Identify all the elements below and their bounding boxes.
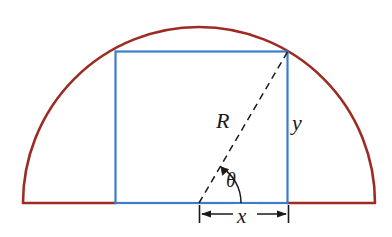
semicircle-rectangle-diagram	[0, 0, 392, 237]
radius-label: R	[216, 110, 229, 132]
semicircle-arc	[23, 27, 375, 203]
radius-dashed-line	[199, 51, 288, 203]
figure-canvas: R y θ x	[0, 0, 392, 237]
dimension-arrowhead-right-icon	[277, 210, 287, 217]
inscribed-rectangle	[116, 52, 288, 204]
height-label: y	[292, 112, 302, 134]
dimension-arrowhead-left-icon	[201, 210, 211, 217]
angle-label: θ	[226, 170, 236, 190]
width-label: x	[237, 206, 246, 227]
